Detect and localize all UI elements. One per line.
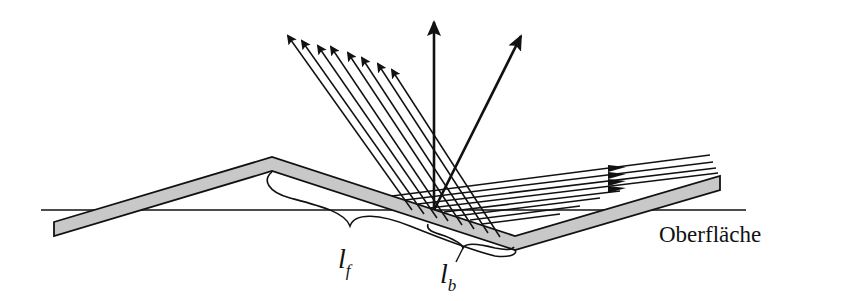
reflection-diagram: [0, 0, 863, 301]
lf-label: lf: [338, 243, 351, 275]
specular-arrow: [434, 36, 521, 210]
lb-subscript: b: [448, 276, 457, 295]
lb-label: lb: [440, 258, 456, 290]
lb-main: l: [440, 258, 448, 289]
lb-leader: [456, 248, 463, 262]
lf-main: l: [338, 243, 346, 274]
rough-surface-strip: [54, 157, 720, 250]
surface-label: Oberfläche: [659, 222, 761, 248]
lf-subscript: f: [346, 261, 351, 280]
